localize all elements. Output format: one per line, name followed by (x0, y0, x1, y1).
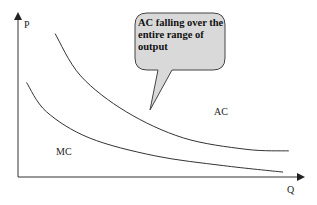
callout: AC falling over the entire range of outp… (135, 13, 225, 110)
x-axis-label: Q (287, 184, 295, 195)
ac-curve-label: AC (214, 106, 228, 117)
callout-line-1: AC falling over the (138, 17, 224, 28)
mc-curve-label: MC (56, 146, 72, 157)
cost-curves-diagram: P Q AC MC AC falling over the entire ran… (0, 0, 317, 205)
callout-line-2: entire range of (138, 29, 204, 40)
callout-line-3: output (138, 41, 168, 52)
y-axis-label: P (24, 19, 30, 30)
